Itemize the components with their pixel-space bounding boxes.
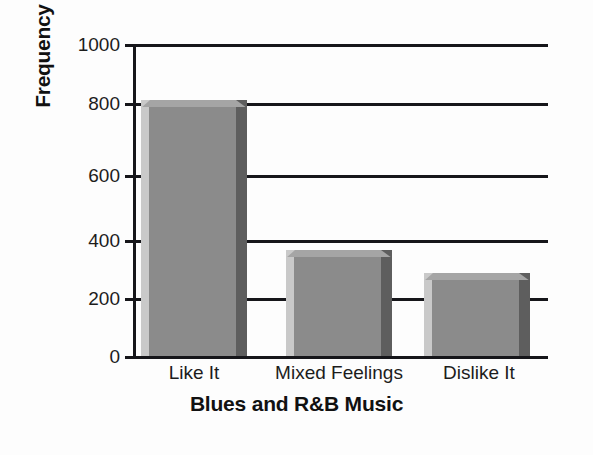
- bar-chart-figure: Frequency 1000 800 600 400 200 0: [0, 0, 593, 455]
- x-axis-line: [133, 356, 548, 359]
- gridline-1000: [136, 44, 548, 47]
- y-axis-tick-label: 0: [62, 347, 120, 366]
- x-axis-tick-label-like-it: Like It: [126, 362, 262, 384]
- y-axis-tick-label: 800: [62, 94, 120, 113]
- bar-front-face: [149, 107, 237, 356]
- y-axis-tick-label-group: 1000 800 600 400 200 0: [55, 0, 120, 455]
- bar-right-face: [519, 280, 530, 356]
- bar-right-face: [381, 257, 392, 356]
- y-axis-title: Frequency: [30, 0, 56, 146]
- bar-dislike-it[interactable]: [424, 273, 530, 356]
- bar-like-it[interactable]: [141, 100, 247, 356]
- y-axis-tick-label: 200: [62, 289, 120, 308]
- x-axis-tick-label-mixed-feelings: Mixed Feelings: [268, 362, 410, 384]
- y-axis-tick-label: 1000: [62, 35, 120, 54]
- bar-front-face: [432, 280, 520, 356]
- x-axis-title: Blues and R&B Music: [0, 392, 593, 416]
- bar-right-face: [236, 107, 247, 356]
- x-axis-tick-label-dislike-it: Dislike It: [410, 362, 548, 384]
- y-axis-tick-label: 600: [62, 166, 120, 185]
- bar-front-face: [294, 257, 382, 356]
- bar-mixed-feelings[interactable]: [286, 250, 392, 356]
- plot-area: [136, 44, 548, 356]
- y-axis-tick-label: 400: [62, 231, 120, 250]
